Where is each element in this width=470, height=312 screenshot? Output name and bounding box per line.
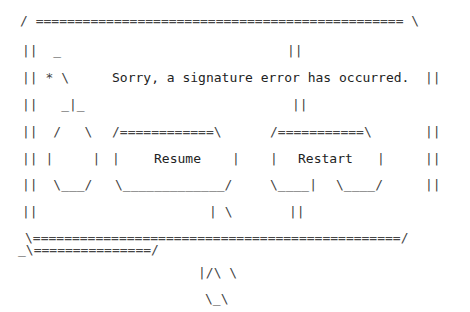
resume-button-bottom[interactable]: \_____________/ [115,178,232,192]
frame-right: || [425,125,441,139]
restart-button[interactable]: Restart [298,152,353,166]
bug-icon-part: || / \ [22,125,92,139]
resume-button-edge[interactable]: | [112,152,120,166]
resume-button-edge[interactable]: | [232,152,240,166]
frame-right: || [425,178,441,192]
frame-divider: || [289,205,305,219]
bug-icon-part: || | | [22,152,100,166]
error-message: Sorry, a signature error has occurred. [112,71,409,85]
restart-button-top[interactable]: /===========\ [270,125,372,139]
frame-right: || [425,71,441,85]
bug-icon-part: || \___/ [22,178,92,192]
resume-button[interactable]: Resume [154,152,201,166]
restart-button-edge[interactable]: | [377,152,385,166]
bug-icon-part: || * \ [22,71,69,85]
frame-left: || [22,205,38,219]
frame-divider: || [292,98,308,112]
speech-tail-part: \_\ [205,292,228,306]
restart-button-bottom[interactable]: \____| [270,178,317,192]
ascii-error-dialog: / ======================================… [0,0,470,312]
tail-border: _\===============/ [18,243,159,257]
resume-button-top[interactable]: /============\ [112,125,222,139]
frame-left: || _ [22,44,61,58]
top-border: / ======================================… [20,14,419,28]
frame-right: || [425,152,441,166]
restart-button-edge[interactable]: | [270,152,278,166]
restart-button-bottom[interactable]: \____/ [336,178,383,192]
frame-divider: || [287,44,303,58]
speech-tail-part: |/\ \ [198,266,237,280]
bug-icon-part: || _|_ [22,98,85,112]
speech-tail-part: | \ [209,205,232,219]
